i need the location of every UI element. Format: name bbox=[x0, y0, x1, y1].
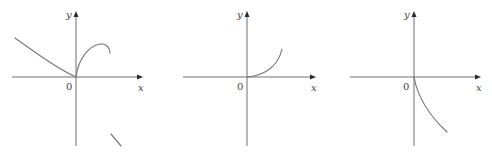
graph-2-x-label: x bbox=[311, 82, 317, 93]
graph-1-right-arc bbox=[76, 44, 110, 77]
graph-1-y-label: y bbox=[65, 9, 72, 20]
graph-1-x-label: x bbox=[138, 82, 144, 93]
graph-2: y 0 x bbox=[183, 9, 317, 146]
graph-3-origin-label: 0 bbox=[403, 81, 409, 92]
graph-1-left-curve bbox=[15, 38, 76, 77]
graph-1: y 0 x bbox=[12, 9, 144, 146]
graph-1-segment bbox=[111, 134, 121, 146]
graph-1-y-arrow-icon bbox=[74, 11, 79, 17]
graph-2-y-arrow-icon bbox=[245, 11, 250, 17]
graph-3-x-label: x bbox=[476, 82, 482, 93]
graph-3-y-label: y bbox=[403, 9, 410, 20]
graph-2-x-arrow-icon bbox=[310, 75, 316, 80]
graph-1-origin-label: 0 bbox=[66, 81, 72, 92]
graph-1-x-arrow-icon bbox=[137, 75, 143, 80]
graph-3-curve bbox=[414, 77, 447, 132]
graph-2-origin-label: 0 bbox=[237, 81, 243, 92]
three-graph-figure: y 0 x y 0 x y 0 x bbox=[0, 0, 492, 153]
graph-2-y-label: y bbox=[236, 9, 243, 20]
graph-3: y 0 x bbox=[350, 9, 482, 146]
graph-3-y-arrow-icon bbox=[412, 11, 417, 17]
graph-3-x-arrow-icon bbox=[475, 75, 481, 80]
graph-2-curve bbox=[247, 49, 282, 77]
